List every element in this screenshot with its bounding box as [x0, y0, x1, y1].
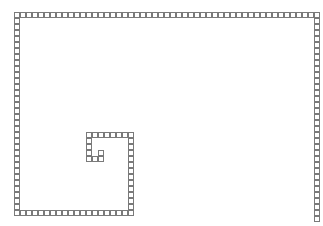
grid-cell	[122, 132, 128, 138]
grid-cell	[314, 216, 320, 222]
grid-cell	[128, 210, 134, 216]
grid-cell	[128, 204, 134, 210]
spiral-grid-diagram	[0, 0, 323, 226]
grid-cell	[98, 150, 104, 156]
grid-cell	[98, 156, 104, 162]
